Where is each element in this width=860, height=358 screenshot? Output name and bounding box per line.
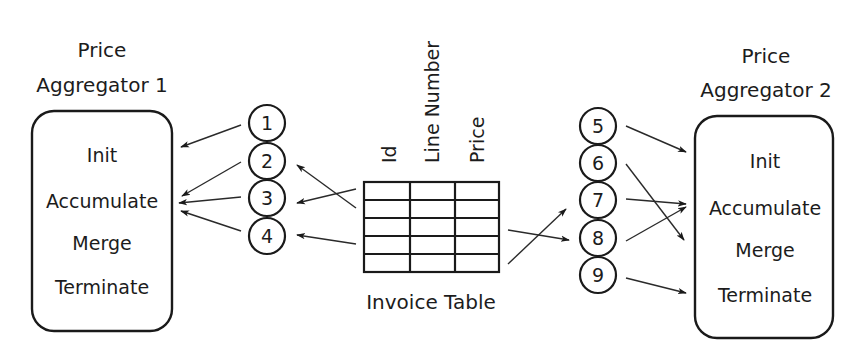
arrow-5-to-init — [626, 126, 686, 152]
aggregator-2-title-line1: Price — [742, 44, 791, 68]
aggregator-2: Price Aggregator 2 Init Accumulate Merge… — [695, 44, 833, 338]
step-label-3: 3 — [261, 187, 273, 209]
invoice-table-caption: Invoice Table — [366, 290, 496, 314]
arrow-2-to-accumulate — [182, 162, 241, 196]
step-label-1: 1 — [261, 112, 273, 134]
aggregator-2-method-init: Init — [750, 150, 780, 172]
aggregator-1-method-init: Init — [87, 144, 117, 166]
aggregation-diagram: Price Aggregator 1 Init Accumulate Merge… — [0, 0, 860, 358]
arrows-table-to-left — [297, 165, 356, 244]
aggregator-2-method-terminate: Terminate — [717, 284, 812, 306]
aggregator-1-method-terminate: Terminate — [54, 276, 149, 298]
arrow-table-to-7 — [508, 209, 566, 264]
aggregator-1-title-line1: Price — [78, 38, 127, 62]
arrows-table-to-right — [508, 209, 569, 264]
arrow-3-to-accumulate — [179, 197, 241, 203]
arrow-1-to-init — [181, 125, 241, 147]
arrow-9-to-terminate — [626, 278, 686, 293]
step-label-9: 9 — [592, 264, 604, 286]
step-label-5: 5 — [592, 115, 604, 137]
step-label-4: 4 — [261, 225, 273, 247]
column-header-line-number: Line Number — [421, 41, 443, 163]
step-label-6: 6 — [592, 152, 604, 174]
step-label-7: 7 — [592, 189, 604, 211]
arrows-to-aggregator-2 — [626, 126, 686, 293]
table-grid — [364, 182, 499, 272]
column-header-price: Price — [466, 117, 488, 163]
aggregator-1: Price Aggregator 1 Init Accumulate Merge… — [32, 38, 172, 331]
aggregator-1-title-line2: Aggregator 1 — [36, 73, 168, 97]
column-header-id: Id — [378, 145, 400, 163]
invoice-table: Id Line Number Price Invoice Table — [364, 41, 499, 314]
step-label-8: 8 — [592, 227, 604, 249]
step-label-2: 2 — [261, 150, 273, 172]
right-step-circles: 5 6 7 8 9 — [580, 108, 616, 293]
aggregator-1-method-accumulate: Accumulate — [46, 190, 158, 212]
arrow-table-to-4 — [297, 235, 356, 244]
arrows-to-aggregator-1 — [179, 125, 241, 231]
aggregator-2-method-accumulate: Accumulate — [709, 197, 821, 219]
aggregator-2-title-line2: Aggregator 2 — [700, 78, 832, 102]
left-step-circles: 1 2 3 4 — [249, 105, 285, 254]
arrow-8-to-accumulate — [626, 207, 686, 241]
aggregator-1-method-merge: Merge — [72, 232, 131, 254]
arrow-4-to-accumulate — [181, 211, 241, 231]
aggregator-2-method-merge: Merge — [735, 239, 794, 261]
